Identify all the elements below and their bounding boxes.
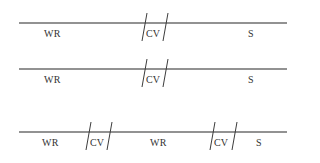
row-3-label-wr-2: WR <box>150 138 167 148</box>
row-1-label-s: S <box>248 29 254 39</box>
row-1-label-wr: WR <box>44 29 61 39</box>
row-3-label-s: S <box>256 138 262 148</box>
row-2-label-wr: WR <box>44 75 61 85</box>
row-3-slash-2 <box>107 122 112 150</box>
row-1-slash-2 <box>163 13 168 41</box>
row-2-label-cv: CV <box>146 75 160 85</box>
row-2-slash-2 <box>163 59 168 87</box>
row-3-label-cv-2: CV <box>214 138 228 148</box>
row-1-label-cv: CV <box>146 29 160 39</box>
row-3-slash-4 <box>232 122 237 150</box>
row-3-label-wr-1: WR <box>42 138 59 148</box>
row-3-label-cv-1: CV <box>90 138 104 148</box>
row-2-label-s: S <box>248 75 254 85</box>
